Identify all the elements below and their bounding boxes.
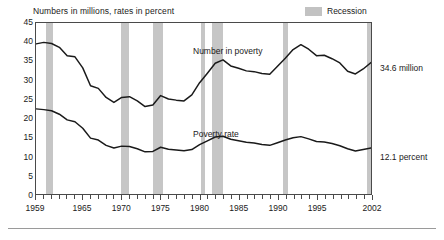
x-tick-label-1975: 1975 (151, 203, 170, 213)
annotation-number-in-poverty: Number in poverty (193, 46, 262, 56)
x-tick-label-1995: 1995 (308, 203, 327, 213)
x-tick-1994 (309, 195, 310, 199)
y-tick-label-35: 35 (5, 55, 33, 65)
x-tick-1966 (90, 195, 91, 199)
x-tick-1970 (121, 195, 122, 200)
poverty-chart-figure: Numbers in millions, rates in percent Re… (0, 0, 444, 240)
x-tick-2000 (356, 195, 357, 199)
x-tick-1984 (231, 195, 232, 199)
y-tick-label-5: 5 (5, 171, 33, 181)
x-axis-ticks (35, 195, 372, 201)
x-tick-1985 (239, 195, 240, 200)
x-tick-1996 (325, 195, 326, 199)
y-tick-label-45: 45 (5, 17, 33, 27)
x-tick-1992 (294, 195, 295, 199)
x-tick-1960 (43, 195, 44, 199)
end-label-number-in-poverty: 34.6 million (380, 63, 423, 73)
x-tick-1974 (153, 195, 154, 199)
y-tick-label-20: 20 (5, 113, 33, 123)
x-tick-1981 (207, 195, 208, 199)
x-tick-1986 (247, 195, 248, 199)
x-tick-1972 (137, 195, 138, 199)
x-tick-1991 (286, 195, 287, 199)
chart-title: Numbers in millions, rates in percent (33, 6, 174, 16)
x-tick-1978 (184, 195, 185, 199)
x-tick-1995 (317, 195, 318, 200)
x-tick-1977 (176, 195, 177, 199)
x-tick-1999 (348, 195, 349, 199)
x-tick-1988 (262, 195, 263, 199)
x-tick-1997 (333, 195, 334, 199)
chart-legend: Recession (305, 6, 367, 16)
x-tick-1980 (200, 195, 201, 200)
x-tick-1998 (341, 195, 342, 199)
y-tick-label-10: 10 (5, 152, 33, 162)
x-tick-1976 (168, 195, 169, 199)
x-tick-1973 (145, 195, 146, 199)
x-tick-label-1980: 1980 (190, 203, 209, 213)
x-tick-1967 (98, 195, 99, 199)
x-tick-1983 (223, 195, 224, 199)
x-tick-1987 (254, 195, 255, 199)
x-tick-1971 (129, 195, 130, 199)
y-tick-label-15: 15 (5, 132, 33, 142)
bottom-divider (8, 228, 436, 229)
x-tick-1975 (160, 195, 161, 200)
x-tick-1989 (270, 195, 271, 199)
x-tick-1962 (59, 195, 60, 199)
y-tick-label-25: 25 (5, 94, 33, 104)
x-tick-1965 (82, 195, 83, 200)
x-tick-1969 (113, 195, 114, 199)
x-tick-1982 (215, 195, 216, 199)
x-tick-label-1970: 1970 (112, 203, 131, 213)
x-tick-2001 (364, 195, 365, 199)
x-tick-1979 (192, 195, 193, 199)
end-label-poverty-rate: 12.1 percent (380, 152, 427, 162)
y-tick-label-0: 0 (5, 190, 33, 200)
x-tick-label-1965: 1965 (73, 203, 92, 213)
x-tick-label-2002: 2002 (363, 203, 382, 213)
annotation-poverty-rate: Poverty rate (193, 129, 239, 139)
x-tick-label-1959: 1959 (26, 203, 45, 213)
x-tick-1959 (35, 195, 36, 200)
x-tick-1961 (51, 195, 52, 199)
x-tick-2002 (372, 195, 373, 200)
x-tick-1964 (74, 195, 75, 199)
x-tick-1963 (66, 195, 67, 199)
x-tick-label-1985: 1985 (229, 203, 248, 213)
recession-legend-swatch (305, 7, 322, 16)
recession-legend-label: Recession (327, 6, 367, 16)
x-tick-1968 (106, 195, 107, 199)
x-axis-labels: 195919651970197519801985199019952002 (0, 203, 444, 217)
y-tick-label-30: 30 (5, 75, 33, 85)
y-tick-label-40: 40 (5, 36, 33, 46)
x-tick-1990 (278, 195, 279, 200)
x-tick-1993 (301, 195, 302, 199)
x-tick-label-1990: 1990 (268, 203, 287, 213)
y-axis: 051015202530354045 (0, 22, 33, 195)
